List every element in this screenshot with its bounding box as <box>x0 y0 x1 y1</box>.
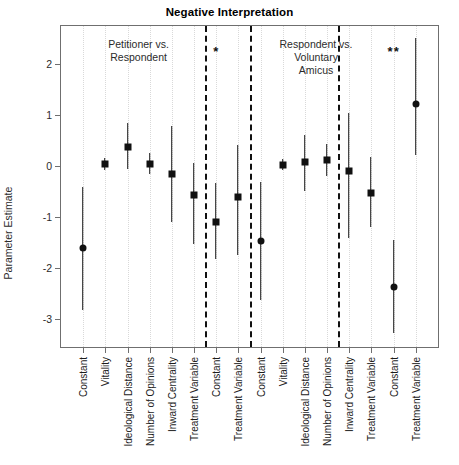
x-axis-tick-label: Vitality <box>277 357 288 386</box>
x-axis-tick <box>261 347 262 353</box>
y-axis-tick <box>55 217 61 218</box>
y-axis-tick-label: -2 <box>43 262 52 274</box>
estimate-point <box>146 160 153 167</box>
x-axis-tick-label: Treatment Variable <box>410 357 421 441</box>
plot-inner: Petitioner vs.RespondentRespondent vs.Vo… <box>61 26 438 347</box>
estimate-point <box>324 157 331 164</box>
sig-marker-2-icon: ** <box>388 44 400 59</box>
x-axis-tick-label: Ideological Distance <box>122 357 133 447</box>
x-axis-tick-label: Constant <box>255 357 266 397</box>
chart-title: Negative Interpretation <box>0 6 459 18</box>
x-axis-tick <box>83 347 84 353</box>
x-axis-tick <box>416 347 417 353</box>
confidence-interval <box>348 113 349 238</box>
panel-separator <box>250 26 252 347</box>
x-axis-tick <box>283 347 284 353</box>
estimate-point <box>102 161 109 168</box>
estimate-point <box>235 193 242 200</box>
x-axis-tick <box>194 347 195 353</box>
y-axis-tick <box>55 115 61 116</box>
estimate-point <box>412 101 419 108</box>
confidence-interval <box>193 163 194 244</box>
category-guide <box>150 26 151 347</box>
x-axis-tick-label: Constant <box>211 357 222 397</box>
x-axis-tick-label: Treatment Variable <box>366 357 377 441</box>
x-axis-tick <box>150 347 151 353</box>
panel-note-left: Petitioner vs.Respondent <box>108 38 169 64</box>
y-axis-tick-label: 1 <box>46 109 52 121</box>
x-axis-tick-label: Inward Centrality <box>166 357 177 432</box>
estimate-point <box>191 192 198 199</box>
panel-note-line: Petitioner vs. <box>108 38 169 51</box>
y-axis-title: Parameter Estimate <box>2 153 14 313</box>
x-axis-tick-label: Treatment Variable <box>189 357 200 441</box>
y-axis-tick-label: 2 <box>46 58 52 70</box>
estimate-point <box>257 238 264 245</box>
estimate-point <box>390 284 397 291</box>
estimate-point <box>80 244 87 251</box>
x-axis-tick-label: Number of Opinions <box>144 357 155 446</box>
x-axis-tick <box>105 347 106 353</box>
estimate-point <box>301 159 308 166</box>
panel-note-line: Respondent <box>108 51 169 64</box>
panel-note-line: Respondent vs. <box>280 38 353 51</box>
category-guide <box>128 26 129 347</box>
x-axis-tick-label: Constant <box>78 357 89 397</box>
x-axis-tick <box>394 347 395 353</box>
y-axis-tick-label: -1 <box>43 211 52 223</box>
y-axis-tick-label: -3 <box>43 313 52 325</box>
x-axis-tick <box>327 347 328 353</box>
x-axis-tick <box>349 347 350 353</box>
x-axis-tick-label: Ideological Distance <box>299 357 310 447</box>
category-guide <box>105 26 106 347</box>
x-axis-tick <box>128 347 129 353</box>
sig-marker-1-icon: * <box>213 44 219 59</box>
estimate-point <box>124 143 131 150</box>
confidence-interval <box>415 38 416 155</box>
y-axis-tick-label: 0 <box>46 160 52 172</box>
chart-figure: Negative Interpretation Parameter Estima… <box>0 0 459 465</box>
x-axis-tick-label: Constant <box>388 357 399 397</box>
x-axis-tick <box>238 347 239 353</box>
x-axis-tick-label: Inward Centrality <box>344 357 355 432</box>
panel-note-right: Respondent vs.VoluntaryAmicus <box>280 38 353 77</box>
y-axis-tick <box>55 166 61 167</box>
x-axis-tick-label: Treatment Variable <box>233 357 244 441</box>
y-axis-tick <box>55 64 61 65</box>
panel-note-line: Amicus <box>280 64 353 77</box>
y-axis-tick <box>55 268 61 269</box>
estimate-point <box>346 168 353 175</box>
x-axis-tick-label: Number of Opinions <box>322 357 333 446</box>
x-axis-tick <box>216 347 217 353</box>
x-axis-tick <box>172 347 173 353</box>
x-axis-tick <box>371 347 372 353</box>
estimate-point <box>213 218 220 225</box>
x-axis-tick-label: Vitality <box>100 357 111 386</box>
estimate-point <box>279 161 286 168</box>
panel-separator <box>205 26 207 347</box>
x-axis-tick <box>305 347 306 353</box>
plot-area: Petitioner vs.RespondentRespondent vs.Vo… <box>60 25 439 348</box>
estimate-point <box>168 171 175 178</box>
panel-note-line: Voluntary <box>280 51 353 64</box>
estimate-point <box>368 190 375 197</box>
y-axis-tick <box>55 319 61 320</box>
